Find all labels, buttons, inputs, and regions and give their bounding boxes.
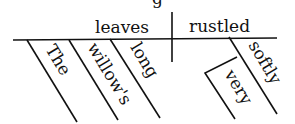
predicate-word: rustled [189,16,250,36]
sentence-diagram: g leaves rustled The willow's long softl… [0,0,295,124]
subject-word: leaves [95,17,149,37]
modifier-word-very: very [220,65,257,109]
partial-title-glyph: g [152,0,163,8]
modifier-word-softly: softly [245,37,287,88]
